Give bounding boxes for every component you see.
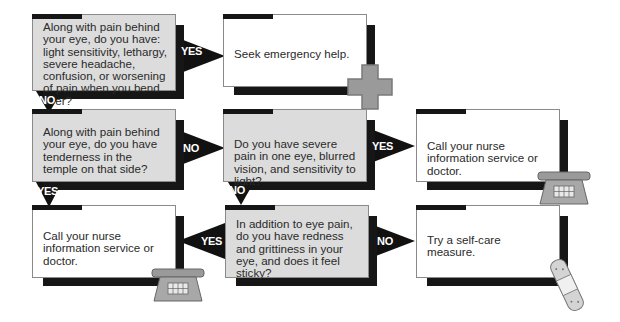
telephone-icon bbox=[536, 166, 592, 206]
label-q3-yes: YES bbox=[372, 140, 393, 152]
answer-1-text: Seek emergency help. bbox=[234, 48, 358, 60]
question-2-box: Along with pain behind your eye, do you … bbox=[32, 109, 176, 182]
label-q1-no: NO bbox=[39, 94, 55, 106]
label-q2-no: NO bbox=[183, 142, 199, 154]
telephone-icon bbox=[150, 263, 206, 303]
answer-4-text: Try a self-care measure. bbox=[427, 234, 551, 259]
question-1-box: Along with pain behind your eye, do you … bbox=[32, 14, 176, 91]
question-2-text: Along with pain behind your eye, do you … bbox=[43, 126, 167, 175]
question-4-text: In addition to eye pain, do you have red… bbox=[236, 218, 360, 279]
question-3-box: Do you have severe pain in one eye, blur… bbox=[223, 109, 367, 182]
label-q4-no: NO bbox=[377, 235, 393, 247]
question-4-box: In addition to eye pain, do you have red… bbox=[225, 205, 369, 278]
question-3-text: Do you have severe pain in one eye, blur… bbox=[234, 138, 358, 187]
answer-3-text: Call your nurse information service or d… bbox=[43, 230, 167, 267]
answer-2-text: Call your nurse information service or d… bbox=[427, 140, 551, 177]
label-q3-no: NO bbox=[229, 184, 245, 196]
answer-1-box: Seek emergency help. bbox=[223, 14, 367, 87]
label-q1-yes: YES bbox=[181, 45, 202, 57]
red-cross-icon bbox=[347, 64, 393, 110]
label-q4-yes: YES bbox=[201, 235, 222, 247]
question-1-text: Along with pain behind your eye, do you … bbox=[43, 21, 167, 107]
label-q2-yes: YES bbox=[37, 185, 58, 197]
bandage-icon bbox=[550, 256, 584, 314]
answer-4-box: Try a self-care measure. bbox=[416, 205, 560, 278]
